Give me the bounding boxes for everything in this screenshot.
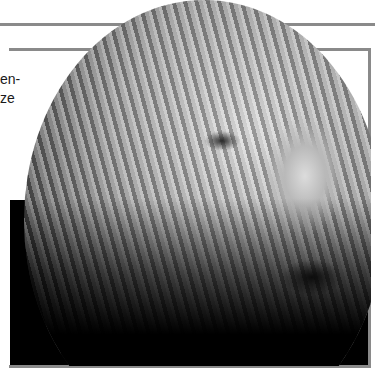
text-line-1: en- <box>0 70 20 89</box>
earth-photo <box>10 0 371 366</box>
earth-night-shadow <box>24 0 371 366</box>
text-line-2: ze <box>0 89 20 108</box>
body-text-fragment: en- ze <box>0 70 20 108</box>
